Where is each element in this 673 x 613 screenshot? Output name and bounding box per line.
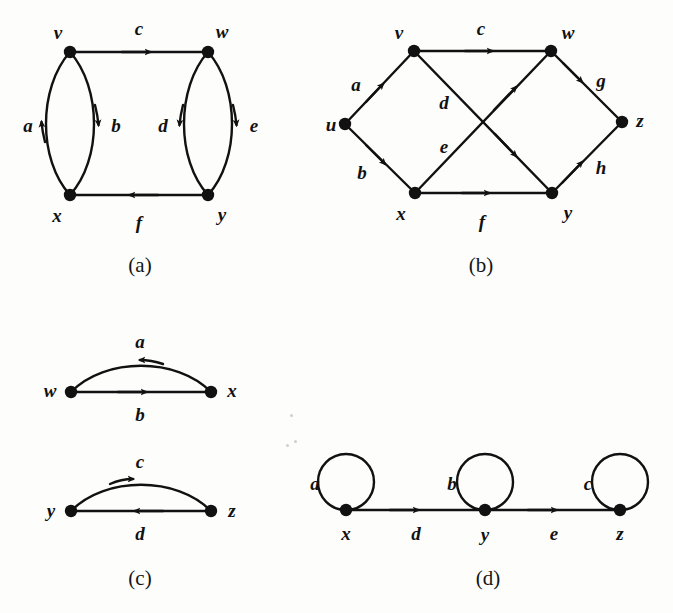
vertex-b-v (408, 45, 420, 57)
edge-label-d-c: c (584, 474, 592, 493)
scan-speck (290, 414, 293, 417)
edge-label-d-d: d (411, 524, 421, 543)
edge-d-b-loop (457, 454, 513, 510)
edge-label-b-d: d (439, 93, 449, 112)
vertex-b-y (546, 187, 558, 199)
vertex-label-b-w: w (562, 23, 575, 42)
edge-c-c-arrow (110, 479, 133, 484)
edge-b-d-arrow (495, 134, 516, 156)
vertex-d-z (614, 504, 626, 516)
scan-speck (294, 440, 297, 443)
edge-label-b-g: g (596, 71, 606, 90)
vertex-label-b-x: x (396, 204, 406, 223)
vertex-label-b-z: z (636, 111, 643, 130)
edge-b-e-arrow (494, 87, 516, 110)
caption-panel-b: (b) (469, 255, 494, 276)
panel-b: u v w x y z a b c d e f g h (0, 0, 673, 290)
edge-b-g-arrow (563, 63, 582, 82)
edge-label-b-a: a (351, 75, 361, 94)
vertex-label-d-z: z (616, 524, 623, 543)
vertex-c-y (65, 505, 77, 517)
caption-panel-d: (d) (476, 568, 501, 589)
edge-label-b-f: f (479, 212, 485, 231)
edge-c-c (71, 485, 211, 511)
vertex-c-x (205, 386, 217, 398)
edge-label-c-b: b (135, 405, 145, 424)
vertex-label-b-u: u (326, 115, 337, 134)
panel-b-graphic (0, 0, 673, 290)
vertex-d-x (340, 504, 352, 516)
edge-label-d-e: e (550, 524, 558, 543)
vertex-b-w (545, 45, 557, 57)
edge-label-b-b: b (357, 163, 367, 182)
edge-b-b-arrow (366, 145, 385, 164)
vertex-label-c-y: y (47, 501, 55, 520)
vertex-d-y (479, 504, 491, 516)
vertex-label-d-y: y (481, 525, 489, 544)
vertex-label-c-z: z (228, 501, 235, 520)
edge-label-d-b: b (447, 474, 457, 493)
vertex-label-c-x: x (227, 381, 237, 400)
edge-c-a-arrow (140, 360, 163, 364)
edge-label-c-a: a (135, 332, 145, 351)
caption-panel-c: (c) (128, 568, 151, 589)
vertex-label-d-x: x (341, 524, 351, 543)
edge-b-a-arrow (366, 84, 383, 102)
scan-speck (286, 444, 289, 447)
vertex-b-z (616, 116, 628, 128)
edge-b-h-arrow (562, 162, 582, 183)
vertex-b-u (339, 118, 351, 130)
edge-d-a-loop (318, 454, 374, 510)
vertex-c-z (205, 505, 217, 517)
vertex-label-c-w: w (44, 381, 57, 400)
edge-b-g (551, 51, 622, 122)
edge-d-c-loop (592, 454, 648, 510)
edge-c-a (71, 366, 211, 392)
edge-label-b-h: h (596, 158, 607, 177)
vertex-b-x (409, 187, 421, 199)
vertex-c-w (65, 386, 77, 398)
vertex-label-b-v: v (395, 23, 403, 42)
figure-canvas: v w x y c a b d e f (a) (0, 0, 673, 613)
edge-label-b-e: e (440, 137, 448, 156)
edge-label-d-a: a (310, 474, 320, 493)
edge-label-b-c: c (477, 19, 485, 38)
edge-label-c-c: c (136, 452, 144, 471)
vertex-label-b-y: y (564, 203, 572, 222)
edge-label-c-d: d (135, 524, 145, 543)
